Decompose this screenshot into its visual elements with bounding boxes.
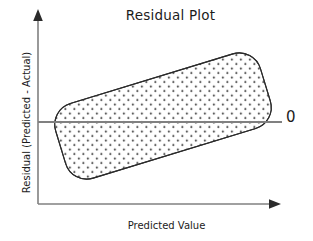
residual-band bbox=[49, 47, 276, 184]
residual-band-stipple-fill bbox=[49, 47, 276, 184]
residual-plot-figure: Residual Plot Predicted Value Residual (… bbox=[0, 0, 313, 241]
x-axis bbox=[38, 199, 281, 209]
zero-line-label: 0 bbox=[286, 110, 296, 125]
page-title: Residual Plot bbox=[0, 7, 313, 23]
y-axis-label: Residual (Predicted - Actual) bbox=[21, 33, 32, 213]
x-axis-label: Predicted Value bbox=[0, 220, 313, 231]
plot-canvas bbox=[0, 0, 313, 241]
y-axis bbox=[33, 9, 43, 204]
x-axis-arrow-icon bbox=[269, 199, 281, 209]
